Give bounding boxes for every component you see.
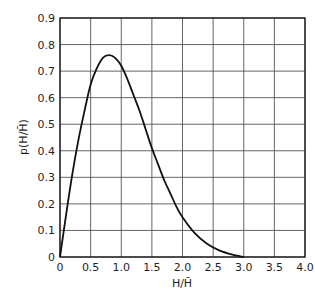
y-tick-label: 0.8 <box>38 39 56 52</box>
y-tick-label: 0 <box>48 251 55 264</box>
y-tick-label: 0.3 <box>38 171 56 184</box>
x-tick-label: 3.5 <box>266 261 284 274</box>
y-tick-label: 0.7 <box>38 65 56 78</box>
grid <box>60 18 305 257</box>
x-tick-label: 0.5 <box>82 261 100 274</box>
y-tick-label: 0.2 <box>38 198 56 211</box>
x-axis-label: H/H̄ <box>172 277 192 290</box>
x-tick-label: 1.0 <box>113 261 131 274</box>
y-tick-label: 0.9 <box>38 12 56 25</box>
x-tick-label: 3.0 <box>235 261 253 274</box>
y-tick-label: 0.6 <box>38 92 56 105</box>
y-tick-label: 0.4 <box>38 145 56 158</box>
chart: 00.51.01.52.02.53.03.54.0 00.10.20.30.40… <box>0 0 315 295</box>
y-tick-label: 0.5 <box>38 118 56 131</box>
x-tick-label: 2.5 <box>204 261 222 274</box>
y-axis-label: p(H/H̄) <box>17 119 30 155</box>
x-tick-label: 4.0 <box>296 261 314 274</box>
x-tick-label: 1.5 <box>143 261 161 274</box>
y-tick-labels: 00.10.20.30.40.50.60.70.80.9 <box>38 12 56 264</box>
x-tick-labels: 00.51.01.52.02.53.03.54.0 <box>57 261 314 274</box>
x-tick-label: 2.0 <box>174 261 192 274</box>
y-tick-label: 0.1 <box>38 224 56 237</box>
x-tick-label: 0 <box>57 261 64 274</box>
